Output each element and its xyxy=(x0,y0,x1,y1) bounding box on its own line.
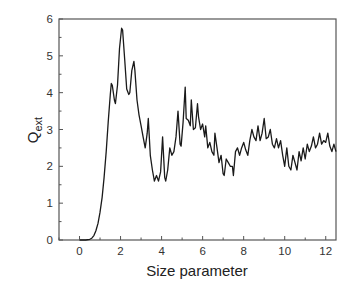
y-tick-label: 0 xyxy=(47,234,53,246)
qext-chart: 0246810120123456 Size parameter Qext xyxy=(0,0,354,294)
x-tick-label: 2 xyxy=(117,245,123,257)
x-tick-label: 0 xyxy=(76,245,82,257)
x-tick-label: 12 xyxy=(319,245,332,257)
x-tick-label: 4 xyxy=(158,245,165,257)
y-tick-label: 2 xyxy=(47,160,53,172)
y-tick-label: 3 xyxy=(47,124,53,136)
y-axis-title-subscript: ext xyxy=(32,117,44,132)
x-tick-label: 6 xyxy=(199,245,205,257)
y-axis-title: Qext xyxy=(24,117,44,143)
x-tick-label: 10 xyxy=(278,245,291,257)
y-tick-label: 5 xyxy=(47,50,53,62)
x-axis-title: Size parameter xyxy=(146,262,248,279)
x-tick-label: 8 xyxy=(240,245,246,257)
y-tick-label: 1 xyxy=(47,197,53,209)
series-line-qext xyxy=(80,28,337,240)
y-axis-title-main: Q xyxy=(24,132,41,144)
y-tick-label: 6 xyxy=(47,13,53,25)
y-tick-label: 4 xyxy=(47,87,54,99)
